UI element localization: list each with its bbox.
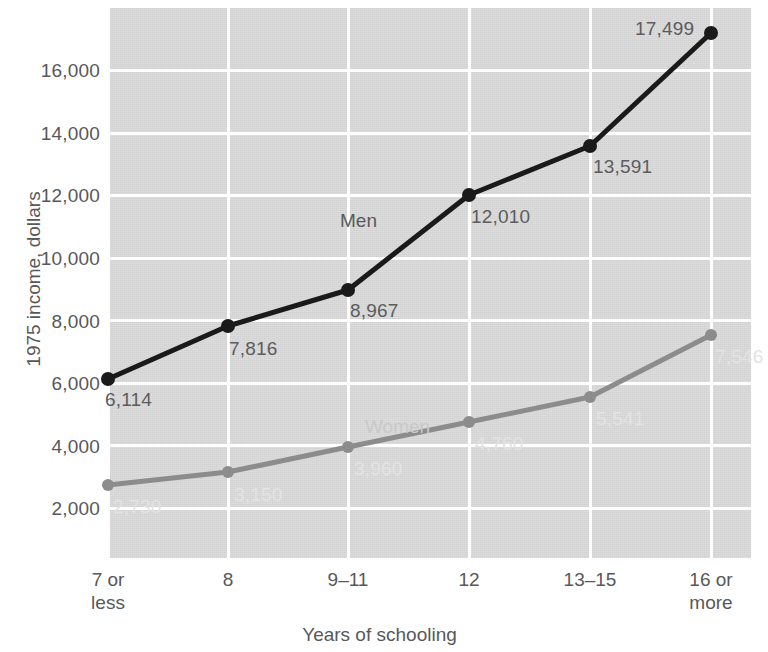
y-tick-2000: 2,000 — [8, 498, 100, 520]
men-line — [108, 33, 711, 379]
series-label-women: Women — [365, 416, 430, 438]
men-value-label-3: 12,010 — [471, 206, 530, 228]
women-value-label-4: 5,541 — [596, 408, 645, 430]
women-point-5 — [705, 329, 717, 341]
y-tick-12000: 12,000 — [8, 185, 100, 207]
men-value-label-1: 7,816 — [229, 338, 278, 360]
men-value-label-2: 8,967 — [350, 300, 399, 322]
women-point-1 — [222, 466, 234, 478]
women-point-2 — [342, 441, 354, 453]
y-tick-6000: 6,000 — [8, 373, 100, 395]
x-tick-13-15: 13–15 — [530, 568, 650, 591]
series-label-men: Men — [340, 210, 377, 232]
x-tick-8: 8 — [168, 568, 288, 591]
x-tick-16-or-more: 16 or more — [651, 568, 768, 614]
men-point-1 — [221, 319, 235, 333]
y-tick-8000: 8,000 — [8, 311, 100, 333]
men-point-5 — [704, 26, 718, 40]
y-axis-title: 1975 income, dollars — [23, 149, 45, 409]
men-value-label-0: 6,114 — [105, 389, 152, 411]
plot-svg — [107, 8, 751, 558]
y-tick-4000: 4,000 — [8, 436, 100, 458]
y-tick-16000: 16,000 — [8, 60, 100, 82]
men-value-label-5: 17,499 — [635, 18, 694, 40]
plot-area: 6,114 7,816 8,967 12,010 13,591 17,499 2… — [107, 8, 751, 558]
x-tick-7-or-less: 7 or less — [48, 568, 168, 614]
women-point-3 — [463, 416, 475, 428]
men-value-label-4: 13,591 — [593, 156, 652, 178]
women-value-label-1: 3,150 — [234, 484, 283, 506]
women-point-0 — [102, 479, 114, 491]
y-tick-10000: 10,000 — [8, 248, 100, 270]
women-value-label-2: 3,960 — [354, 458, 403, 480]
women-value-label-0: 2,730 — [113, 496, 162, 518]
y-axis-tick-labels: 16,000 14,000 12,000 10,000 8,000 6,000 … — [0, 0, 100, 652]
men-point-0 — [101, 372, 115, 386]
women-value-label-5: 7,546 — [715, 346, 764, 368]
men-point-3 — [462, 188, 476, 202]
women-value-label-3: 4,760 — [475, 433, 524, 455]
men-point-4 — [583, 139, 597, 153]
women-point-4 — [584, 391, 596, 403]
x-tick-12: 12 — [409, 568, 529, 591]
x-tick-9-11: 9–11 — [288, 568, 408, 591]
x-axis-title: Years of schooling — [0, 624, 759, 646]
men-markers — [101, 26, 718, 386]
horizontal-gridlines — [107, 70, 751, 508]
y-tick-14000: 14,000 — [8, 123, 100, 145]
men-point-2 — [341, 283, 355, 297]
